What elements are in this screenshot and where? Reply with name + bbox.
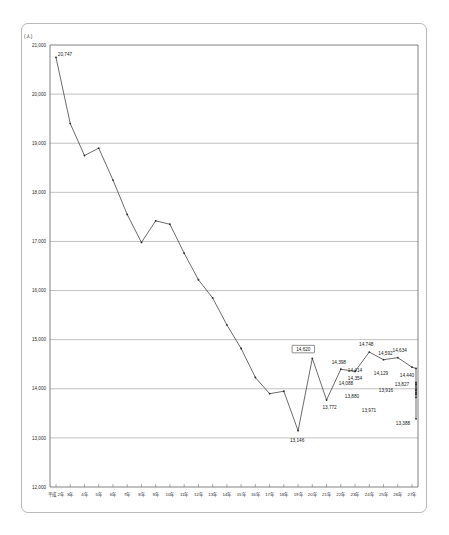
y-axis-tick-label: 20,000 <box>32 92 46 97</box>
y-axis-tick-label: 12,000 <box>32 485 46 490</box>
data-point-marker <box>415 394 417 396</box>
series-group <box>56 57 416 430</box>
data-point-marker <box>383 359 385 361</box>
y-axis-tick-label: 15,000 <box>32 337 46 342</box>
data-point-label: 14,398 <box>332 360 347 365</box>
data-point-marker <box>368 351 370 353</box>
y-axis-tick-label: 14,000 <box>32 386 46 391</box>
x-axis-tick-label: 13年 <box>208 491 218 498</box>
data-point-marker <box>155 220 157 222</box>
data-point-marker <box>297 430 299 432</box>
x-axis-tick-label: 7年 <box>124 491 131 498</box>
data-point-label: 13,916 <box>379 388 394 393</box>
x-axis-tick-label: 3年 <box>67 491 74 498</box>
y-axis-tick-label: 18,000 <box>32 190 46 195</box>
series-line <box>56 57 412 430</box>
x-axis-tick-label: 15年 <box>237 491 247 498</box>
gridlines-group <box>50 94 418 438</box>
x-axis-tick-label: 25年 <box>379 491 389 498</box>
data-point-marker <box>311 357 313 359</box>
data-point-marker <box>112 179 114 181</box>
data-point-marker <box>84 155 86 157</box>
y-axis-tick-label: 17,000 <box>32 239 46 244</box>
y-axis-tick-label: 16,000 <box>32 288 46 293</box>
x-axis-tick-label: 19年 <box>294 491 304 498</box>
data-point-marker <box>226 324 228 326</box>
line-chart: 21,00020,00019,00018,00017,00016,00015,0… <box>0 0 449 535</box>
data-point-marker <box>283 390 285 392</box>
data-point-label: 20,747 <box>58 52 73 57</box>
data-point-marker <box>69 123 71 125</box>
data-point-marker <box>183 252 185 254</box>
y-axis-tick-label: 19,000 <box>32 141 46 146</box>
data-point-marker <box>415 368 417 370</box>
x-axis-tick-label: 14年 <box>222 491 232 498</box>
data-point-marker <box>397 357 399 359</box>
x-axis-tick-label: 23年 <box>351 491 361 498</box>
x-axis-tick-label: 8年 <box>138 491 145 498</box>
data-point-marker <box>126 214 128 216</box>
data-labels-group: 20,74713,14614,62013,77214,39814,35414,7… <box>58 52 415 442</box>
data-point-label: 14,440 <box>400 373 415 378</box>
data-point-label: 13,388 <box>396 421 411 426</box>
x-axis-tick-label: 22年 <box>336 491 346 498</box>
data-point-label: 14,592 <box>378 351 393 356</box>
x-axis-tick-label: 20年 <box>308 491 318 498</box>
data-point-label: 14,620 <box>296 347 311 352</box>
x-axis-tick-label: 21年 <box>322 491 332 498</box>
data-point-label: 14,634 <box>393 348 408 353</box>
x-axis-tick-label: 17年 <box>265 491 275 498</box>
y-axis-ticks-group: 21,00020,00019,00018,00017,00016,00015,0… <box>32 43 46 490</box>
data-point-marker <box>411 366 413 368</box>
x-axis-tick-label: 5年 <box>95 491 102 498</box>
data-point-label: 14,088 <box>339 381 354 386</box>
x-axis-tick-label: 6年 <box>110 491 117 498</box>
x-axis-tick-label: 27年 <box>408 491 418 498</box>
data-point-marker <box>240 348 242 350</box>
x-axis-tick-label: 12年 <box>194 491 204 498</box>
page-canvas: (人) 21,00020,00019,00018,00017,00016,000… <box>0 0 449 535</box>
data-point-marker <box>169 223 171 225</box>
x-axis-tick-label: 26年 <box>393 491 403 498</box>
data-point-marker <box>55 57 57 59</box>
data-point-marker <box>198 279 200 281</box>
data-point-marker <box>415 384 417 386</box>
data-point-label: 13,772 <box>322 405 337 410</box>
data-point-marker <box>98 147 100 149</box>
x-axis-tick-label: 10年 <box>165 491 175 498</box>
data-point-marker <box>141 242 143 244</box>
data-point-marker <box>254 377 256 379</box>
data-point-label: 13,146 <box>290 438 305 443</box>
x-axis-tick-label: 18年 <box>279 491 289 498</box>
data-point-label: 13,880 <box>345 394 360 399</box>
data-point-marker <box>415 392 417 394</box>
x-axis-tick-label: 24年 <box>365 491 375 498</box>
x-axis-tick-label: 平成 2年 <box>48 491 65 498</box>
data-point-marker <box>326 399 328 401</box>
data-point-marker <box>269 393 271 395</box>
x-axis-tick-label: 11年 <box>180 491 190 498</box>
x-axis-tick-label: 16年 <box>251 491 261 498</box>
x-axis-tick-label: 4年 <box>81 491 88 498</box>
x-axis-tick-label: 9年 <box>152 491 159 498</box>
data-point-label: 14,414 <box>348 368 363 373</box>
data-point-marker <box>415 389 417 391</box>
data-point-marker <box>415 396 417 398</box>
data-point-label: 14,129 <box>374 371 389 376</box>
data-point-label: 14,748 <box>359 342 374 347</box>
data-point-label: 13,827 <box>395 382 410 387</box>
markers-group <box>55 57 417 432</box>
data-point-marker <box>212 297 214 299</box>
x-axis-ticks-group: 平成 2年3年4年5年6年7年8年9年10年11年12年13年14年15年16年… <box>48 484 417 498</box>
y-axis-tick-label: 21,000 <box>32 43 46 48</box>
axes-group <box>50 45 418 487</box>
data-point-marker <box>415 418 417 420</box>
y-axis-tick-label: 13,000 <box>32 436 46 441</box>
data-point-marker <box>415 382 417 384</box>
data-point-marker <box>340 368 342 370</box>
data-point-label: 13,971 <box>362 408 377 413</box>
